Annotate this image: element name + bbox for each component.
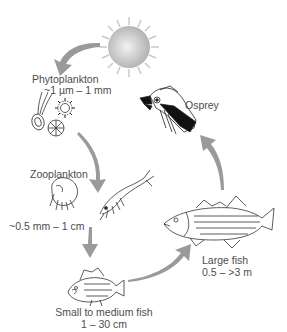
zooplankton-size: ~0.5 mm – 1 cm: [9, 220, 85, 232]
osprey-label: Osprey: [185, 99, 219, 111]
sun-icon: [99, 17, 159, 77]
large-fish-label: Large fish: [202, 254, 248, 266]
phytoplankton-size: ~1 µm – 1 mm: [44, 84, 112, 96]
large-fish-size: 0.5 – >3 m: [202, 266, 252, 278]
small-fish-size: 1 – 30 cm: [44, 318, 164, 330]
phytoplankton-icon: [30, 92, 75, 136]
small-fish-icon: [68, 268, 124, 306]
arrow-small-fish-to-large-fish: [128, 244, 191, 282]
small-fish-label: Small to medium fish: [44, 306, 164, 318]
large-fish-icon: [164, 196, 274, 248]
arrow-large-fish-to-osprey: [200, 135, 224, 190]
arrow-sun-to-phytoplankton: [54, 43, 100, 76]
arrow-phytoplankton-to-zooplankton: [77, 132, 106, 193]
food-chain-diagram: [0, 0, 287, 332]
zooplankton-label: Zooplankton: [30, 168, 88, 180]
